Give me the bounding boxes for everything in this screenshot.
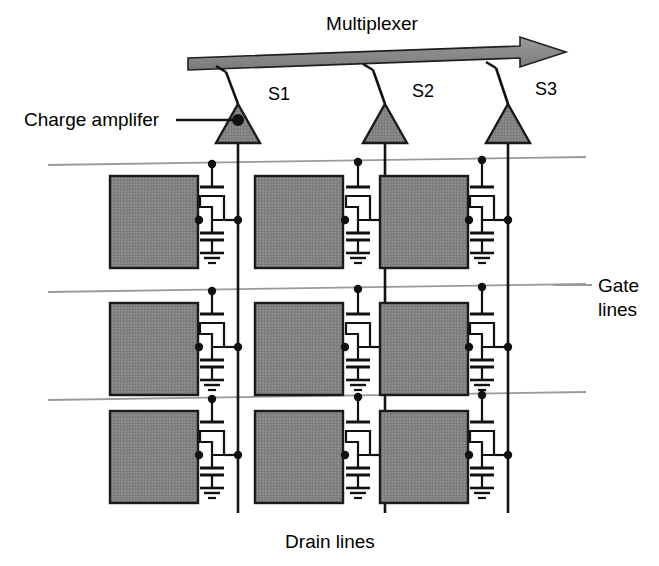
xray-detector-array-diagram: Multiplexer Gate lines Drain lines xyxy=(0,0,659,566)
gate-lines-label-line2: lines xyxy=(598,299,637,320)
drain-contact-dot xyxy=(234,216,242,224)
pixel-electrode xyxy=(255,411,343,503)
source-contact-dot xyxy=(195,343,203,351)
pixel-electrode xyxy=(255,303,343,395)
source-contact-dot xyxy=(465,343,473,351)
source-contact-dot xyxy=(465,451,473,459)
pixel-electrode xyxy=(380,176,468,268)
source-contact-dot xyxy=(465,216,473,224)
pixel-electrode xyxy=(110,176,198,268)
pixel-electrode xyxy=(380,303,468,395)
multiplexer-label: Multiplexer xyxy=(326,13,419,34)
drain-contact-dot xyxy=(234,451,242,459)
switch-label-s1: S1 xyxy=(268,84,290,104)
source-contact-dot xyxy=(341,343,349,351)
source-contact-dot xyxy=(341,216,349,224)
switch-label-s2: S2 xyxy=(412,81,434,101)
drain-contact-dot xyxy=(504,451,512,459)
drain-contact-dot xyxy=(234,343,242,351)
switch-label-s3: S3 xyxy=(535,79,557,99)
pixel-electrode xyxy=(255,176,343,268)
charge-amplifier-label: Charge amplifer xyxy=(24,109,160,130)
pixel-electrode xyxy=(110,411,198,503)
drain-contact-dot xyxy=(504,343,512,351)
source-contact-dot xyxy=(195,451,203,459)
schematic-canvas: Multiplexer Gate lines Drain lines xyxy=(0,0,659,566)
pixel-electrode xyxy=(110,303,198,395)
gate-lines-label-line1: Gate xyxy=(598,275,639,296)
source-contact-dot xyxy=(195,216,203,224)
drain-lines-label: Drain lines xyxy=(285,531,375,552)
source-contact-dot xyxy=(341,451,349,459)
pixel-electrode xyxy=(380,411,468,503)
drain-contact-dot xyxy=(504,216,512,224)
